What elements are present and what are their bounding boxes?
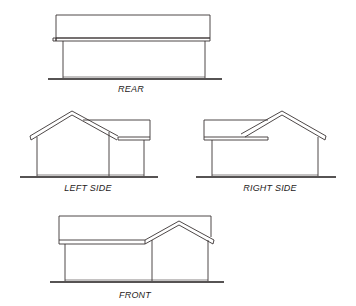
rear-fascia — [56, 38, 210, 41]
rear-roof — [56, 15, 210, 38]
right-side-gable-inner — [245, 115, 325, 140]
front-roof — [59, 216, 211, 240]
right-side-shed-roof — [204, 120, 268, 137]
rear-label: REAR — [118, 84, 144, 94]
right-side-elevation — [196, 111, 336, 177]
elevation-drawing-sheet — [0, 0, 356, 306]
front-gable-eave-right — [213, 240, 214, 244]
left-side-elevation — [20, 111, 158, 177]
front-gable-outer — [145, 221, 214, 240]
left-side-label: LEFT SIDE — [64, 183, 111, 193]
front-fascia — [59, 240, 145, 244]
right-side-gable-eave-right — [325, 136, 326, 140]
right-side-label: RIGHT SIDE — [243, 183, 297, 193]
right-side-shed-fascia — [204, 137, 268, 140]
left-side-shed-fascia — [118, 137, 150, 140]
front-label: FRONT — [119, 290, 151, 300]
rear-fascia-tab — [53, 38, 56, 41]
rear-elevation — [48, 15, 222, 79]
left-side-gable-eave-left — [30, 136, 31, 140]
front-elevation — [50, 216, 224, 282]
